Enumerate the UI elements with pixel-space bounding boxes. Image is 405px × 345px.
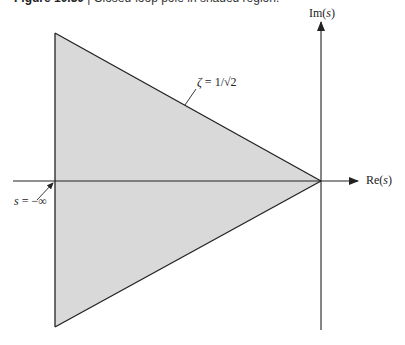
shaded-pole-region	[55, 33, 321, 327]
imaginary-axis-label: Im(s)	[309, 6, 335, 21]
damping-ratio-label: ζ = 1/√2	[197, 75, 237, 90]
s-plane-diagram	[0, 0, 405, 345]
real-axis-label: Re(s)	[366, 173, 392, 188]
damping-label-leader	[185, 89, 196, 105]
s-infinity-label: s = −∞	[14, 194, 47, 209]
